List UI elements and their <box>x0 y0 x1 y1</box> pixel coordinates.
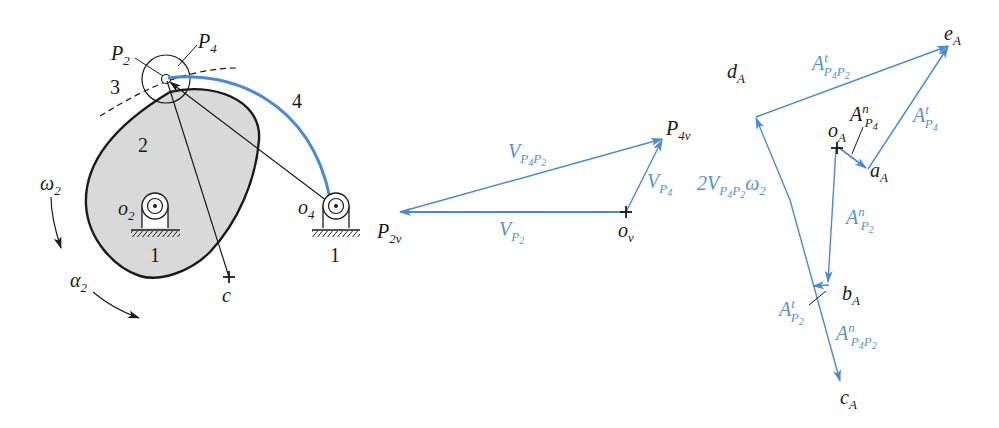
vector-AtP2 <box>813 285 829 286</box>
label-P4: P4 <box>197 30 217 56</box>
label-ov: ov <box>618 219 634 245</box>
velocity-polygon: P2v P4v ov VP4P2 VP2 VP4 <box>376 117 691 246</box>
origin-ov-cross-icon <box>620 206 632 218</box>
leader-P4 <box>178 45 197 66</box>
label-dA: dA <box>727 60 745 86</box>
label-VP4P2: VP4P2 <box>508 140 546 168</box>
label-P2: P2 <box>110 42 130 68</box>
label-AtP2: AtP2 <box>777 296 804 327</box>
leader-AtP2 <box>809 291 826 305</box>
center-c-cross-icon <box>223 271 235 283</box>
cam-link-2 <box>86 89 259 278</box>
label-AnP4P2: AnP4P2 <box>834 320 877 351</box>
label-link-3: 3 <box>110 76 120 98</box>
label-c: c <box>222 284 231 306</box>
alpha2-arrow-icon <box>93 292 139 318</box>
label-AtP4: AtP4 <box>911 102 938 133</box>
label-AnP2: AnP2 <box>844 204 874 235</box>
acceleration-polygon: dA eA oA aA bA cA AtP4P2 AnP4 AtP4 AnP2 … <box>697 22 961 412</box>
label-alpha2: α2 <box>70 269 88 295</box>
vector-AtP4 <box>868 47 948 169</box>
vector-AnP2 <box>828 148 836 282</box>
label-VP4: VP4 <box>647 170 672 198</box>
label-oA: oA <box>828 119 846 145</box>
label-aA: aA <box>870 159 888 185</box>
omega2-arrow-icon <box>51 197 61 248</box>
leader-AnP4 <box>852 127 863 154</box>
pivot-o4-icon <box>312 193 360 237</box>
kinematic-diagram: P2 P4 3 2 4 1 1 o2 o4 c ω2 α2 P2v P4v ov… <box>0 0 999 428</box>
label-ground-right: 1 <box>330 244 340 266</box>
label-AtP4P2: AtP4P2 <box>810 50 850 81</box>
vector-AnP4 <box>838 147 866 168</box>
label-coriolis: 2VP4P2ω2 <box>697 172 766 200</box>
vector-VP4P2 <box>400 139 662 212</box>
label-o4: o4 <box>298 196 315 222</box>
label-P2v: P2v <box>376 220 402 246</box>
label-eA: eA <box>944 22 961 48</box>
label-bA: bA <box>842 282 860 308</box>
label-omega2: ω2 <box>40 172 61 198</box>
leader-P2 <box>135 58 163 76</box>
mechanism: P2 P4 3 2 4 1 1 o2 o4 c ω2 α2 <box>40 30 360 318</box>
label-ground-left: 1 <box>150 244 160 266</box>
label-cam-2: 2 <box>138 134 148 156</box>
label-VP2: VP2 <box>499 218 524 246</box>
label-link-4: 4 <box>292 90 302 112</box>
label-cA: cA <box>840 386 857 412</box>
label-P4v: P4v <box>665 117 691 143</box>
vector-AnP4P2 <box>790 200 840 381</box>
